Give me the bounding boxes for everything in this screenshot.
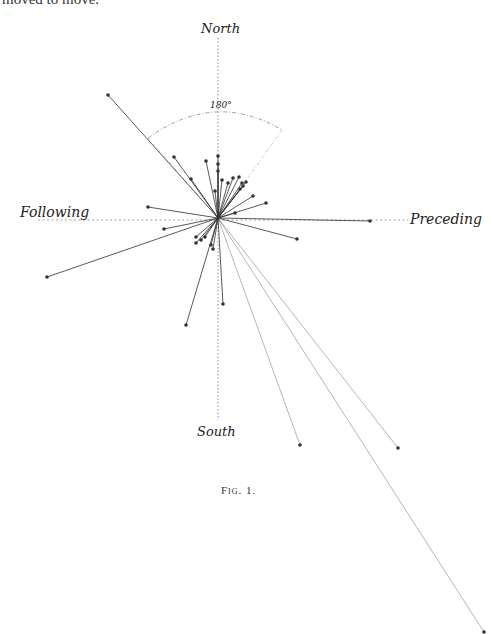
motion-vector [218, 218, 370, 221]
star-point-icon [216, 154, 220, 158]
star-point-icon [295, 237, 299, 241]
arc-angle-label: 180° [210, 100, 232, 110]
star-point-icon [216, 162, 220, 166]
star-point-icon [244, 180, 248, 184]
motion-vector [186, 218, 218, 325]
motion-vector [218, 218, 223, 304]
star-point-icon [264, 201, 268, 205]
star-point-icon [172, 155, 176, 159]
motion-vectors [45, 93, 486, 634]
motion-vector [108, 95, 218, 218]
star-point-icon [211, 247, 215, 251]
following-label: Following [20, 204, 89, 220]
north-label: North [201, 21, 240, 36]
motion-vector [218, 218, 484, 632]
motion-vector [218, 218, 300, 445]
star-point-icon [194, 241, 198, 245]
star-point-icon [146, 205, 150, 209]
star-point-icon [221, 302, 225, 306]
figure-caption: Fig. 1. [221, 484, 256, 496]
star-point-icon [194, 235, 198, 239]
star-point-icon [298, 443, 302, 447]
sector-arc [148, 112, 282, 138]
motion-vector [218, 218, 297, 239]
star-point-icon [203, 235, 207, 239]
south-label: South [197, 424, 236, 439]
motion-vector [47, 218, 218, 277]
preceding-label: Preceding [410, 211, 482, 227]
star-point-icon [231, 176, 235, 180]
star-point-icon [106, 93, 110, 97]
motion-vector [218, 218, 398, 448]
star-motion-diagram [0, 0, 493, 634]
star-point-icon [184, 323, 188, 327]
star-point-icon [368, 219, 372, 223]
star-point-icon [237, 175, 241, 179]
star-point-icon [482, 630, 486, 634]
star-point-icon [216, 169, 220, 173]
star-point-icon [204, 159, 208, 163]
star-point-icon [45, 275, 49, 279]
star-point-icon [233, 211, 237, 215]
star-point-icon [213, 189, 217, 193]
star-point-icon [162, 227, 166, 231]
star-point-icon [396, 446, 400, 450]
star-point-icon [226, 181, 230, 185]
motion-vector [218, 182, 246, 218]
star-point-icon [220, 178, 224, 182]
star-point-icon [189, 177, 193, 181]
star-point-icon [251, 194, 255, 198]
motion-vector [148, 207, 218, 218]
